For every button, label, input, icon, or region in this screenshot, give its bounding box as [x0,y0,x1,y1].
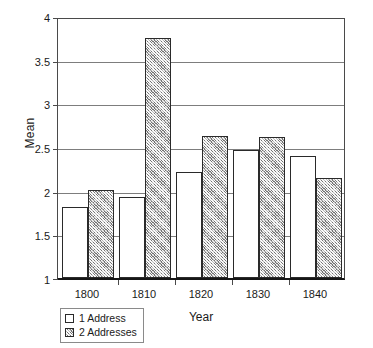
y-axis-tick-labels: 4 3.5 3 2.5 2 1.5 1 [18,0,50,348]
bar-group-1810 [119,18,171,278]
x-tickmark [118,280,119,285]
x-tick-label-1800: 1800 [57,288,117,300]
y-tick-label: 2.5 [18,144,50,155]
x-tickmark [175,280,176,285]
y-tick-label: 1 [18,275,50,286]
bar-1830-1-address[interactable] [233,150,259,278]
legend-swatch-icon [65,328,74,337]
bar-1820-1-address[interactable] [176,172,202,279]
x-tick-label-1820: 1820 [171,288,231,300]
bar-1800-2-addresses[interactable] [88,190,114,278]
y-tick-label: 1.5 [18,231,50,242]
bar-1840-2-addresses[interactable] [316,178,342,278]
bars-layer [58,18,344,278]
chart-legend: 1 Address 2 Addresses [60,308,144,343]
bar-1820-2-addresses[interactable] [202,136,228,278]
y-tick-label: 2 [18,187,50,198]
bar-1810-2-addresses[interactable] [145,38,171,278]
legend-swatch-icon [65,314,74,323]
bar-chart: Mean 4 3.5 3 2.5 2 1.5 1 [0,0,373,348]
legend-label: 1 Address [79,313,126,324]
bar-group-1830 [233,18,285,278]
bar-1800-1-address[interactable] [62,207,88,278]
legend-label: 2 Addresses [79,327,137,338]
bar-group-1820 [176,18,228,278]
x-tickmark [289,280,290,285]
x-tick-label-1830: 1830 [228,288,288,300]
bar-1830-2-addresses[interactable] [259,137,285,278]
x-tick-label-1840: 1840 [285,288,345,300]
legend-item-1-address[interactable]: 1 Address [65,311,137,325]
bar-1840-1-address[interactable] [290,156,316,278]
y-tick-label: 4 [18,13,50,24]
bar-group-1800 [62,18,114,278]
y-tickmark [53,279,58,280]
legend-item-2-addresses[interactable]: 2 Addresses [65,325,137,339]
y-tick-label: 3.5 [18,56,50,67]
bar-1810-1-address[interactable] [119,197,145,278]
y-tick-label: 3 [18,100,50,111]
x-tick-label-1810: 1810 [114,288,174,300]
plot-area [57,18,345,280]
x-tickmark [232,280,233,285]
bar-group-1840 [290,18,342,278]
